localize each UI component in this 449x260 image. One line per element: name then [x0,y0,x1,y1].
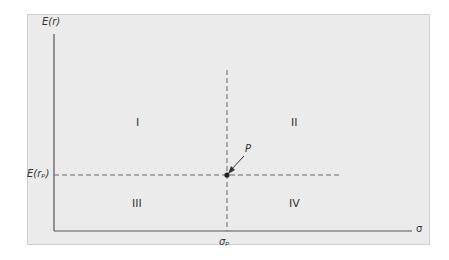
x-axis-label: σ [416,223,422,234]
quadrant-iv-label: IV [289,197,300,210]
diagram-canvas [0,0,449,260]
quadrant-i-label: I [136,116,139,129]
point-label: P [245,143,251,154]
quadrant-ii-label: II [291,116,298,129]
y-axis-label: E(r) [42,16,60,27]
quadrant-iii-label: III [132,197,142,210]
sigma-p-label: σₚ [219,236,230,247]
expected-return-p-label: E(rₚ) [27,168,50,179]
